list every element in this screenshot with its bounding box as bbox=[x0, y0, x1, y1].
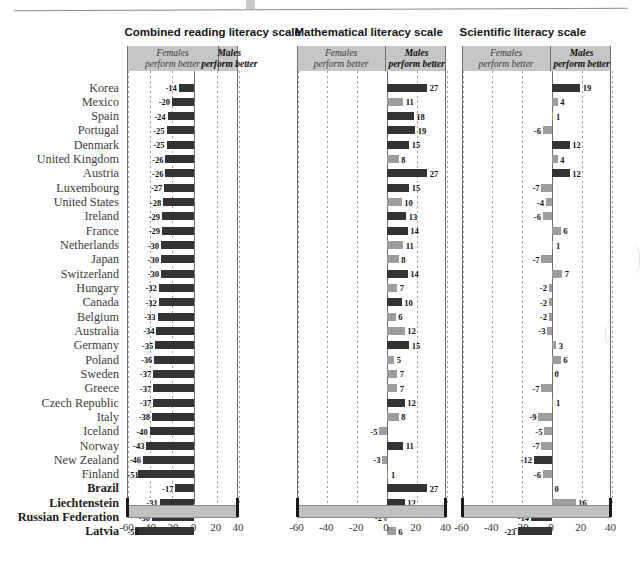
panel-legend-band: Femalesperform betterMalesperform better bbox=[128, 46, 238, 71]
axis-end-cap bbox=[444, 498, 447, 517]
bar bbox=[138, 470, 195, 478]
bar bbox=[547, 327, 551, 335]
bar-value-label: -37 bbox=[128, 370, 152, 378]
bar bbox=[549, 298, 552, 306]
bar bbox=[552, 155, 558, 163]
bar-value-label: 7 bbox=[400, 385, 404, 393]
bar-value-label: -40 bbox=[128, 428, 148, 436]
bar-value-label: -26 bbox=[128, 156, 164, 164]
legend-females-better: Femalesperform better bbox=[298, 46, 385, 71]
bar-value-label: 4 bbox=[560, 98, 564, 106]
bar bbox=[146, 442, 194, 450]
panel-title: Mathematical literacy scale bbox=[295, 26, 443, 38]
bar-value-label: 27 bbox=[430, 84, 439, 92]
bar bbox=[387, 384, 397, 392]
legend-females-better: Femalesperform better bbox=[463, 46, 550, 71]
bar-value-label: 8 bbox=[401, 156, 405, 164]
panel-title: Scientific literacy scale bbox=[460, 26, 587, 38]
legend-females-line1: Females bbox=[325, 48, 357, 59]
bar bbox=[552, 399, 554, 407]
panel-legend-band: Femalesperform betterMalesperform better bbox=[463, 46, 610, 71]
axis-tick-label: 40 bbox=[226, 521, 250, 533]
bar bbox=[541, 442, 551, 450]
bar-value-label: 0 bbox=[554, 485, 558, 493]
country-label: Greece bbox=[0, 383, 119, 394]
bar bbox=[159, 298, 195, 306]
bar-value-label: -5 bbox=[463, 428, 543, 436]
bar bbox=[154, 356, 194, 364]
panel-3: Femalesperform betterMalesperform better… bbox=[462, 46, 611, 504]
bar-value-label: -2 bbox=[463, 313, 547, 321]
legend-males-better: Malesperform better bbox=[385, 46, 448, 71]
zero-axis-line bbox=[552, 71, 553, 504]
country-label: France bbox=[0, 226, 119, 237]
bar bbox=[387, 84, 427, 92]
axis-tick-label: 20 bbox=[569, 521, 593, 533]
legend-females-line2: perform better bbox=[478, 59, 533, 70]
bar bbox=[387, 298, 402, 306]
gridline bbox=[582, 71, 583, 504]
bar-value-label: 15 bbox=[412, 184, 421, 192]
axis-bar bbox=[297, 505, 446, 518]
bar bbox=[549, 313, 552, 321]
bar-value-label: -37 bbox=[128, 399, 152, 407]
bar-value-label: 14 bbox=[410, 227, 419, 235]
bar bbox=[179, 84, 195, 92]
bar bbox=[379, 427, 386, 435]
country-label: Netherlands bbox=[0, 240, 119, 251]
bar-value-label: 1 bbox=[556, 242, 560, 250]
bar bbox=[172, 98, 194, 106]
bar bbox=[387, 484, 427, 492]
bar bbox=[552, 169, 570, 177]
bar bbox=[541, 384, 551, 392]
bar-value-label: 19 bbox=[583, 84, 592, 92]
bar bbox=[552, 356, 561, 364]
bar-value-label: -46 bbox=[128, 456, 142, 464]
bar bbox=[387, 255, 399, 263]
bar-value-label: 7 bbox=[400, 370, 404, 378]
bar-value-label: -9 bbox=[463, 413, 537, 421]
bar bbox=[387, 212, 406, 220]
bar-value-label: -14 bbox=[128, 84, 177, 92]
bar-value-label: 8 bbox=[401, 256, 405, 264]
bar bbox=[161, 270, 194, 278]
bar bbox=[387, 399, 405, 407]
bar-value-label: -37 bbox=[128, 385, 152, 393]
bar bbox=[552, 241, 554, 249]
country-label: Norway bbox=[0, 441, 119, 452]
bar-value-label: 3 bbox=[559, 342, 563, 350]
bar bbox=[153, 384, 194, 392]
bar bbox=[552, 227, 561, 235]
bar-value-label: -4 bbox=[463, 199, 544, 207]
bar-value-label: 27 bbox=[430, 485, 439, 493]
bar-value-label: 8 bbox=[401, 413, 405, 421]
bar bbox=[541, 255, 551, 263]
decorative-top-mark bbox=[246, 0, 255, 9]
legend-males-line2: perform better bbox=[201, 59, 257, 70]
bar bbox=[552, 270, 562, 278]
bar bbox=[552, 141, 570, 149]
country-label: Austria bbox=[0, 168, 119, 179]
country-label: United Kingdom bbox=[0, 154, 119, 165]
bar-value-label: -30 bbox=[128, 270, 159, 278]
bar-value-label: -34 bbox=[128, 327, 155, 335]
bar-value-label: 14 bbox=[410, 270, 419, 278]
bar-value-label: 10 bbox=[404, 199, 413, 207]
country-label: Germany bbox=[0, 340, 119, 351]
axis-tick-label: -40 bbox=[137, 521, 161, 533]
legend-males-line1: Males bbox=[405, 48, 429, 59]
bar-value-label: -12 bbox=[463, 456, 533, 464]
zero-axis-line bbox=[194, 71, 195, 504]
panel-legend-band: Femalesperform betterMalesperform better bbox=[298, 46, 445, 71]
country-label: Hungary bbox=[0, 283, 119, 294]
bar-value-label: 12 bbox=[572, 170, 581, 178]
bar-value-label: -33 bbox=[128, 313, 156, 321]
bar-value-label: -3 bbox=[298, 456, 381, 464]
country-label: United States bbox=[0, 197, 119, 208]
bar-value-label: -2 bbox=[463, 284, 547, 292]
bar-value-label: 7 bbox=[565, 270, 569, 278]
axis-tick-label: -20 bbox=[344, 521, 368, 533]
axis-end-cap bbox=[461, 498, 464, 517]
bar-value-label: 11 bbox=[406, 242, 414, 250]
legend-females-line1: Females bbox=[490, 48, 522, 59]
